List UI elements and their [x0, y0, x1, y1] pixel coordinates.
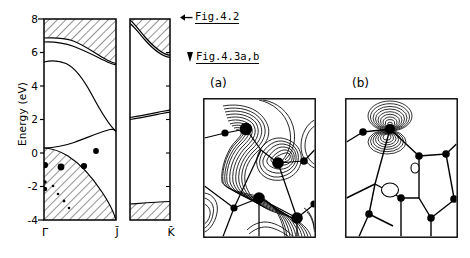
experimental-data-point [93, 148, 99, 154]
filled-dangling-bond-band [44, 129, 116, 148]
contour-map-panel-a [203, 98, 316, 238]
atom-small [415, 152, 423, 160]
upper-bulk-continuum-region [130, 19, 170, 55]
x-tick-gamma-bar: Γ̄ [33, 226, 57, 239]
atom-small [221, 129, 228, 136]
atom-small [359, 128, 367, 136]
contour-panel-b-caption: (b) [352, 76, 369, 90]
y-axis-ticks [38, 19, 44, 220]
contour-panel-a-caption: (a) [210, 76, 227, 90]
atom-small [442, 150, 450, 158]
figure-ref-4-3ab-label: Fig.4.3a,b [196, 50, 259, 64]
atom-large [253, 192, 265, 204]
figure-ref-4-2-label: Fig.4.2 [195, 10, 239, 24]
atom-small [230, 204, 237, 211]
empty-dangling-bond-band [44, 61, 116, 132]
atom-small [397, 194, 405, 202]
band-structure-plot [0, 0, 200, 258]
atom-small [300, 157, 308, 165]
left-arrow-icon [180, 13, 193, 22]
figure-ref-4-2[interactable]: Fig.4.2 [180, 10, 239, 22]
experimental-data-point [52, 185, 55, 188]
open-circle-marker [411, 163, 419, 173]
experimental-data-point [81, 163, 87, 169]
x-tick-j-bar: J̄ [105, 226, 129, 239]
down-triangle-icon [186, 52, 194, 63]
atom-large [272, 157, 284, 169]
lower-bulk-continuum-region [130, 202, 170, 221]
figure-root: Energy (eV) 8 6 4 2 0 -2 -4 [0, 0, 470, 258]
x-tick-k-bar: K̄ [159, 226, 183, 239]
experimental-data-point [42, 162, 48, 168]
experimental-data-point [63, 200, 66, 203]
atom-large [291, 212, 303, 224]
atom-small [427, 214, 435, 222]
experimental-data-point [57, 193, 60, 196]
contour-map-panel-b [345, 98, 458, 238]
figure-ref-4-3ab[interactable]: Fig.4.3a,b [186, 50, 259, 63]
atom-large [385, 124, 395, 134]
experimental-data-point [58, 164, 65, 171]
band-panel-j-k-content [130, 19, 170, 220]
atom-large [240, 123, 252, 135]
band-panel-gamma-j-content [42, 19, 116, 220]
open-circle-marker [382, 183, 399, 197]
upper-bulk-continuum-region [44, 19, 116, 63]
experimental-data-point [68, 207, 71, 210]
lower-bulk-continuum-region [44, 148, 116, 220]
atom-small [365, 210, 373, 218]
